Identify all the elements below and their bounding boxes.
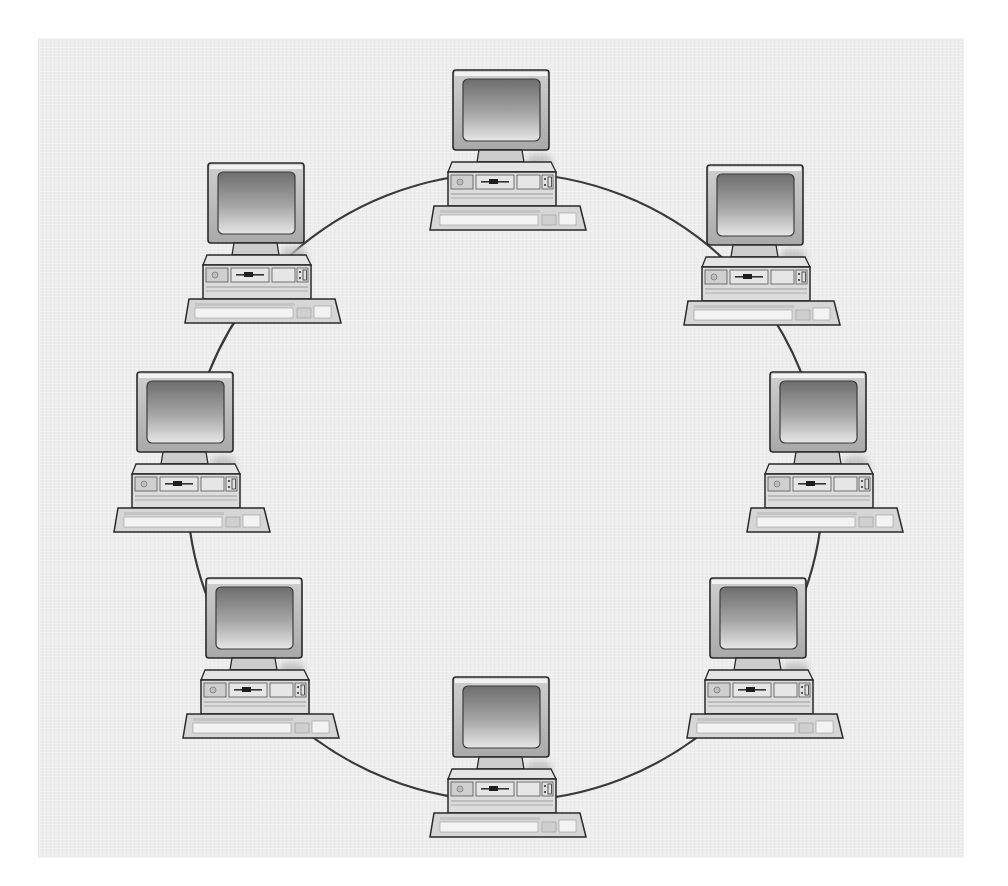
arrow-keys: [799, 723, 813, 733]
numpad-keys: [243, 515, 260, 527]
ring-network-diagram: [0, 0, 1008, 886]
numpad-keys: [312, 721, 329, 733]
case-top: [201, 670, 309, 680]
floppy-latch: [489, 179, 498, 184]
led-icon: [228, 486, 230, 488]
monitor-highlight: [139, 374, 231, 378]
system-unit: [448, 162, 556, 206]
floppy-latch: [244, 272, 253, 277]
monitor: [453, 677, 549, 769]
monitor-stand: [232, 243, 279, 255]
monitor-screen: [463, 79, 540, 141]
main-keys: [697, 723, 795, 733]
system-unit: [448, 769, 556, 813]
monitor-screen: [216, 587, 293, 649]
keyboard: [430, 206, 586, 230]
monitor-highlight: [455, 72, 547, 76]
monitor: [453, 70, 549, 162]
arrow-keys: [859, 517, 873, 527]
monitor: [137, 372, 233, 464]
main-keys: [757, 517, 855, 527]
function-keys: [757, 512, 857, 515]
power-button-icon: [711, 274, 717, 280]
floppy-latch: [743, 274, 752, 279]
keyboard: [183, 714, 339, 738]
case-top: [448, 769, 556, 779]
function-keys: [440, 817, 540, 820]
computer-node-bottom[interactable]: [430, 677, 586, 837]
function-keys: [694, 305, 794, 308]
led-icon: [228, 480, 230, 482]
computer-node-right[interactable]: [747, 372, 903, 532]
case-top: [448, 162, 556, 172]
case-top: [132, 464, 240, 474]
power-button-icon: [457, 179, 463, 185]
monitor: [770, 372, 866, 464]
function-keys: [697, 718, 797, 721]
main-keys: [195, 308, 293, 318]
power-button-icon: [212, 272, 218, 278]
system-unit: [132, 464, 240, 508]
monitor-screen: [463, 686, 540, 748]
keyboard: [747, 508, 903, 532]
drive-bay: [517, 175, 540, 189]
monitor-screen: [717, 174, 794, 236]
monitor-screen: [720, 587, 797, 649]
arrow-keys: [796, 310, 810, 320]
monitor-screen: [147, 381, 224, 443]
arrow-keys: [295, 723, 309, 733]
case-top: [203, 255, 311, 265]
computer-node-left[interactable]: [114, 372, 270, 532]
power-button-icon: [457, 786, 463, 792]
drive-bay: [272, 268, 295, 282]
led-icon: [861, 480, 863, 482]
floppy-latch: [746, 687, 755, 692]
computer-node-upper-left[interactable]: [185, 163, 341, 323]
led-icon: [801, 686, 803, 688]
main-keys: [193, 723, 291, 733]
led-icon: [801, 692, 803, 694]
drive-bay: [771, 270, 794, 284]
floppy-latch: [806, 481, 815, 486]
function-keys: [195, 303, 295, 306]
led-icon: [299, 271, 301, 273]
monitor-highlight: [709, 167, 801, 171]
case-top: [705, 670, 813, 680]
led-icon: [544, 791, 546, 793]
arrow-keys: [542, 215, 556, 225]
monitor-highlight: [455, 679, 547, 683]
keyboard: [185, 299, 341, 323]
monitor-stand: [477, 757, 524, 769]
drive-bay: [517, 782, 540, 796]
main-keys: [694, 310, 792, 320]
monitor-stand: [794, 452, 841, 464]
case-top: [765, 464, 873, 474]
monitor: [208, 163, 304, 255]
monitor-screen: [780, 381, 857, 443]
keyboard: [687, 714, 843, 738]
monitor-highlight: [210, 165, 302, 169]
monitor-stand: [731, 245, 778, 257]
numpad-keys: [876, 515, 893, 527]
system-unit: [765, 464, 873, 508]
power-button-icon: [141, 481, 147, 487]
floppy-latch: [489, 786, 498, 791]
drive-bay: [270, 683, 293, 697]
monitor: [206, 578, 302, 670]
keyboard: [430, 813, 586, 837]
drive-bay: [834, 477, 857, 491]
computer-node-top[interactable]: [430, 70, 586, 230]
numpad-keys: [559, 213, 576, 225]
drive-bay: [201, 477, 224, 491]
main-keys: [440, 215, 538, 225]
monitor-stand: [161, 452, 208, 464]
drive-bay: [774, 683, 797, 697]
led-icon: [798, 279, 800, 281]
system-unit: [201, 670, 309, 714]
computer-node-lower-left[interactable]: [183, 578, 339, 738]
led-icon: [297, 692, 299, 694]
computer-node-upper-right[interactable]: [684, 165, 840, 325]
floppy-latch: [242, 687, 251, 692]
computer-node-lower-right[interactable]: [687, 578, 843, 738]
numpad-keys: [559, 820, 576, 832]
